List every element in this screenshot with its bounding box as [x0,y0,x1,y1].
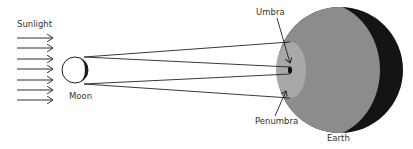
moon-label: Moon [69,91,92,101]
eclipse-diagram: Sunlight Moon Umbra Penumbra Ear [0,0,413,149]
sunlight-arrows [17,38,53,100]
penumbra-pointer-arrow [275,91,286,116]
umbra-label: Umbra [256,7,285,17]
penumbra-label: Penumbra [255,116,298,126]
moon [62,57,88,83]
shadow-lines [84,42,290,98]
earth-label: Earth [327,133,350,143]
sunlight-label: Sunlight [17,19,53,29]
